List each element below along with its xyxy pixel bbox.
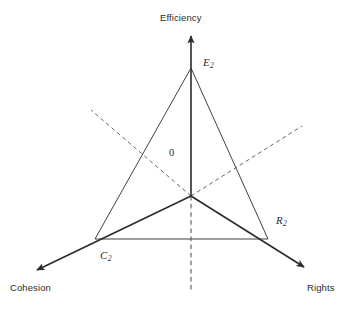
vertex-label-c2-subscript: 2 <box>108 254 112 263</box>
dashed-upper-right-line <box>191 126 302 196</box>
axis-label-rights: Rights <box>307 282 335 293</box>
vertex-label-c2-base: C <box>100 249 107 261</box>
rights-axis-line <box>191 196 304 267</box>
axis-label-efficiency: Efficiency <box>160 12 201 23</box>
vertex-label-r2-base: R <box>276 214 283 226</box>
vertex-label-e2-base: E <box>203 56 210 68</box>
dashed-upper-left-line <box>91 110 191 196</box>
triangle-edge-e2-r2 <box>191 68 268 239</box>
triangle-edge-e2-c2 <box>95 68 191 239</box>
vertex-label-e2: E2 <box>203 56 213 68</box>
axis-label-cohesion: Cohesion <box>10 282 51 293</box>
vertex-label-r2-subscript: 2 <box>283 219 287 228</box>
origin-label: 0 <box>169 147 174 158</box>
vertex-label-c2: C2 <box>100 249 111 261</box>
cohesion-axis-line <box>37 196 191 270</box>
vertex-label-r2: R2 <box>276 214 286 226</box>
triangle-outline <box>95 68 268 239</box>
diagram-canvas: Efficiency Cohesion Rights E2 C2 R2 0 <box>0 0 353 312</box>
diagram-svg <box>0 0 353 312</box>
vertex-label-e2-subscript: 2 <box>210 61 214 70</box>
